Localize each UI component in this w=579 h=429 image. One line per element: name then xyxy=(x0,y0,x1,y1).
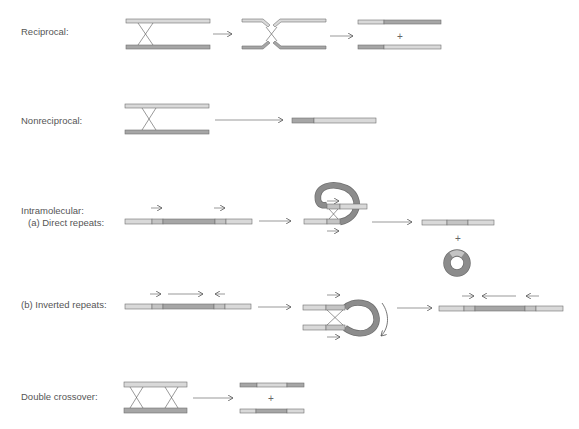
plus-sign: + xyxy=(455,233,461,244)
direct-repeats-intermediate xyxy=(304,185,367,224)
double-crossover-start xyxy=(124,382,187,413)
inverted-repeats-start xyxy=(125,304,251,309)
reciprocal-start xyxy=(126,19,210,49)
recombination-diagram: + + xyxy=(0,0,579,429)
inverted-repeats-intermediate xyxy=(303,303,388,336)
inverted-repeats-product xyxy=(439,306,563,311)
excised-circle xyxy=(447,253,467,273)
direct-repeats-product xyxy=(422,220,494,225)
nonreciprocal-product xyxy=(292,118,376,123)
nonreciprocal-start xyxy=(125,104,209,134)
reciprocal-intermediate xyxy=(242,19,326,49)
plus-sign: + xyxy=(397,31,403,42)
plus-sign: + xyxy=(268,393,274,404)
direct-repeats-start xyxy=(125,219,252,224)
